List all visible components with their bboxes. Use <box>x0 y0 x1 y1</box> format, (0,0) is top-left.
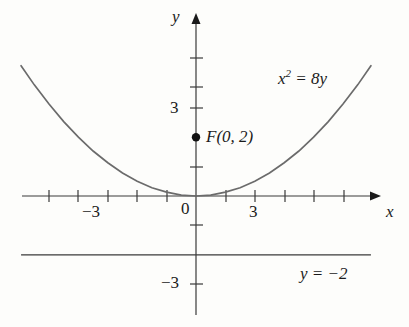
y-axis-label: y <box>172 8 180 25</box>
x-axis-label: x <box>386 203 394 220</box>
y-axis-arrowhead <box>192 13 201 24</box>
x-axis-arrowhead <box>370 192 381 201</box>
parabola-figure: y x −3 3 3 −3 0 F(0, 2) x2 = 8y y = −2 <box>0 0 409 327</box>
directrix-equation-label: y = −2 <box>300 265 348 282</box>
x-tick-label-pos3: 3 <box>249 203 258 220</box>
curve-equation-base: x <box>278 69 286 88</box>
x-tick-label-neg3: −3 <box>82 203 100 220</box>
curve-equation-label: x2 = 8y <box>278 68 327 87</box>
y-tick-label-neg3: −3 <box>161 274 179 291</box>
curve-equation-rest: = 8y <box>291 69 327 88</box>
y-tick-label-pos3: 3 <box>170 99 179 116</box>
focus-point-label: F(0, 2) <box>206 128 253 145</box>
focus-point-marker <box>192 133 200 141</box>
origin-label: 0 <box>181 200 190 217</box>
